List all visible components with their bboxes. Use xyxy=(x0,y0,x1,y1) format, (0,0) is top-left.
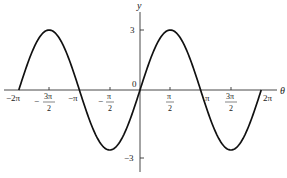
x-tick-label-2pi: 2π xyxy=(263,93,273,103)
x-tick-label-neg-pi2-num: π xyxy=(107,92,111,101)
y-tick-marks xyxy=(140,30,144,158)
x-tick-label-neg-pi2-den: 2 xyxy=(108,104,112,113)
x-tick-label-pi2-num: π xyxy=(167,92,171,101)
x-tick-label-neg-3pi2-den: 2 xyxy=(47,104,51,113)
x-tick-label-neg-pi2-sign: − xyxy=(98,96,103,106)
x-tick-label-3pi2-den: 2 xyxy=(229,104,233,113)
x-axis-label: θ xyxy=(280,85,285,96)
x-tick-label-pi2-den: 2 xyxy=(168,104,172,113)
y-tick-label-3: 3 xyxy=(130,25,135,35)
y-tick-label-neg3: −3 xyxy=(124,153,134,163)
x-tick-label-neg-3pi2-sign: − xyxy=(34,96,39,106)
origin-label: 0 xyxy=(132,79,137,89)
x-tick-label-pi: π xyxy=(205,93,210,103)
sine-chart: y θ 3 −3 0 −2π − 3π 2 −π − π 2 π 2 π 3π … xyxy=(0,0,287,178)
x-tick-label-3pi2-num: 3π xyxy=(226,92,234,101)
y-axis-label: y xyxy=(136,0,142,11)
x-tick-label-neg-pi: −π xyxy=(68,93,78,103)
x-tick-label-neg-2pi: −2π xyxy=(6,93,21,103)
x-tick-label-neg-3pi2-num: 3π xyxy=(44,92,52,101)
